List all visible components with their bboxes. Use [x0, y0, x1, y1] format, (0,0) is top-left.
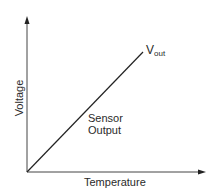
y-axis-arrow-icon: [25, 16, 30, 24]
x-axis-label: Temperature: [84, 176, 146, 188]
vout-label: Vout: [146, 44, 165, 60]
annotation-line-1: Sensor: [88, 112, 123, 124]
y-axis: [25, 16, 30, 172]
y-axis-label: Voltage: [13, 73, 25, 123]
diagram-canvas: [0, 0, 216, 194]
x-axis: [27, 170, 206, 175]
x-axis-arrow-icon: [198, 170, 206, 175]
sensor-output-annotation: Sensor Output: [88, 112, 123, 136]
sensor-output-line: [27, 52, 143, 172]
annotation-line-2: Output: [88, 124, 123, 136]
